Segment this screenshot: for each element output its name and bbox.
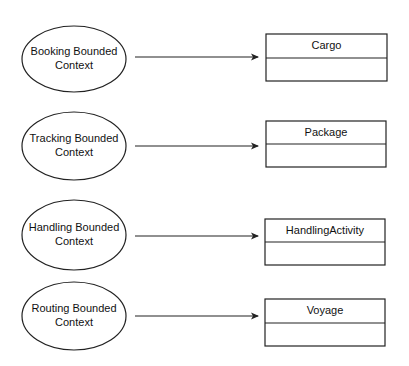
- context-label-line1: Handling Bounded: [29, 221, 120, 233]
- context-label-line1: Tracking Bounded: [30, 132, 119, 144]
- context-label-line1: Routing Bounded: [31, 302, 116, 314]
- context-label-line2: Context: [55, 59, 93, 71]
- bounded-context-diagram: Booking BoundedContextCargoTracking Boun…: [0, 0, 409, 366]
- context-label-line2: Context: [55, 235, 93, 247]
- entity-name: Cargo: [312, 39, 342, 51]
- entity-name: Voyage: [307, 304, 344, 316]
- entity-voyage: Voyage: [265, 299, 385, 346]
- entity-name: HandlingActivity: [286, 224, 365, 236]
- bounded-context-booking: Booking BoundedContext: [22, 26, 126, 92]
- entity-package: Package: [266, 121, 386, 167]
- bounded-context-handling: Handling BoundedContext: [22, 200, 126, 270]
- context-label-line1: Booking Bounded: [31, 45, 118, 57]
- bounded-context-tracking: Tracking BoundedContext: [22, 112, 126, 180]
- context-label-line2: Context: [55, 316, 93, 328]
- context-label-line2: Context: [55, 146, 93, 158]
- bounded-context-routing: Routing BoundedContext: [22, 282, 126, 350]
- entity-name: Package: [305, 126, 348, 138]
- entity-handlingactivity: HandlingActivity: [265, 219, 385, 265]
- entity-cargo: Cargo: [266, 34, 387, 81]
